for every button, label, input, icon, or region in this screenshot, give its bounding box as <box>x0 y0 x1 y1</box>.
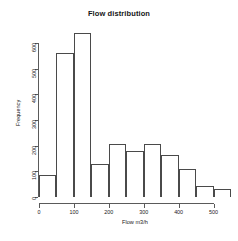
x-axis-title: Flow m3/h <box>39 219 231 225</box>
x-axis-tick <box>214 204 215 208</box>
y-axis-title: Frequency <box>13 0 23 241</box>
histogram-bar <box>91 164 108 197</box>
histogram-bar <box>214 189 231 197</box>
histogram-bar <box>56 53 73 197</box>
histogram-bar <box>74 33 91 197</box>
x-axis-tick <box>74 204 75 208</box>
histogram-bar <box>126 151 143 197</box>
y-axis-title-label: Frequency <box>15 100 21 126</box>
plot-area <box>39 30 231 197</box>
x-axis-tick-label: 0 <box>38 209 41 215</box>
histogram-figure: Flow distribution Frequency 010020030040… <box>0 0 238 241</box>
histogram-bar <box>161 155 178 197</box>
histogram-bar <box>109 144 126 197</box>
x-axis: 0100200300400500 <box>39 203 231 205</box>
x-axis-tick-label: 100 <box>69 209 78 215</box>
x-axis-tick <box>144 204 145 208</box>
x-axis-tick-label: 500 <box>209 209 218 215</box>
x-axis-tick <box>179 204 180 208</box>
histogram-bar <box>179 169 196 197</box>
x-axis-tick-label: 200 <box>104 209 113 215</box>
x-axis-tick <box>39 204 40 208</box>
histogram-bar <box>196 186 213 197</box>
histogram-bar <box>144 144 161 197</box>
x-axis-tick <box>109 204 110 208</box>
histogram-bar <box>39 175 56 197</box>
x-axis-tick-label: 400 <box>174 209 183 215</box>
x-axis-tick-label: 300 <box>139 209 148 215</box>
x-axis-line <box>39 203 214 204</box>
chart-title: Flow distribution <box>0 9 238 18</box>
